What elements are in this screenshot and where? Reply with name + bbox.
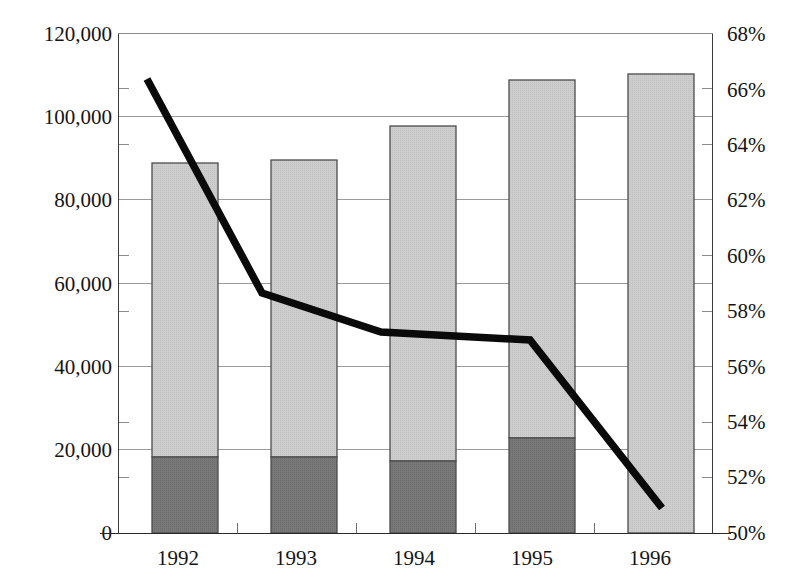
- chart-container: , , , , , 120,000 100,000 80,000 60,000 …: [0, 0, 788, 586]
- bar-dark-1993[interactable]: [271, 457, 337, 533]
- bar-group-1996[interactable]: [628, 74, 694, 533]
- bar-light-1992[interactable]: [152, 163, 218, 457]
- bar-dark-1992[interactable]: [152, 457, 218, 533]
- plot-area: [0, 0, 788, 586]
- bar-group-1992[interactable]: [152, 163, 218, 533]
- bar-dark-1994[interactable]: [390, 461, 456, 533]
- bar-dark-1995[interactable]: [509, 438, 575, 533]
- bar-group-1995[interactable]: [509, 80, 575, 533]
- bar-group-1993[interactable]: [271, 160, 337, 533]
- bar-light-1996[interactable]: [628, 74, 694, 533]
- bar-light-1994[interactable]: [390, 126, 456, 461]
